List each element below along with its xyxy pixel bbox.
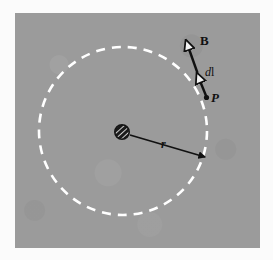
label-dl: dl [205,66,214,78]
b-field-arrow [186,41,198,74]
label-b: B [200,34,209,47]
label-r: r [161,138,166,150]
label-p: P [211,91,219,104]
figure-root: B dl P r [0,0,273,260]
label-dl-l: l [211,65,214,79]
figure-vector-layer [0,0,273,260]
wire-cross-section [115,125,129,139]
point-p-dot [204,95,209,100]
radius-arrow [130,135,205,157]
